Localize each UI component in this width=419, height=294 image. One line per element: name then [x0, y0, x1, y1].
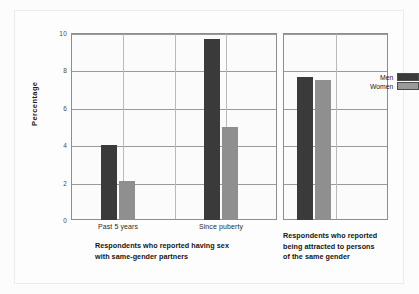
gridline-x-right-1	[336, 34, 337, 219]
caption-left-panel: Respondents who reported having sex with…	[95, 241, 255, 262]
y-axis: 0 2 4 6 8 10	[71, 33, 72, 220]
gridline-x-left-2	[175, 34, 176, 219]
legend-swatch-women-icon	[397, 82, 419, 90]
gridline-y-6	[72, 109, 276, 110]
caption-right-line3: of the same gender	[283, 252, 401, 263]
y-tick-6: 6	[63, 104, 72, 111]
caption-right-line1: Respondents who reported	[283, 231, 401, 242]
legend-label-men: Men	[380, 74, 393, 81]
y-tick-10: 10	[59, 30, 72, 37]
caption-right-line2: being attracted to persons	[283, 242, 401, 253]
plot-area: Men Women	[71, 33, 388, 220]
bar-men-since-puberty[interactable]	[204, 39, 220, 220]
gridline-y-10	[72, 34, 276, 35]
x-tick-past-5-years: Past 5 years	[98, 223, 138, 230]
caption-left-line2: with same-gender partners	[95, 252, 255, 263]
legend-swatch-men-icon	[397, 73, 419, 81]
y-tick-0: 0	[63, 217, 72, 224]
caption-right-panel: Respondents who reported being attracted…	[283, 231, 401, 263]
legend-label-women: Women	[370, 83, 393, 90]
caption-left-line1: Respondents who reported having sex	[95, 241, 255, 252]
bar-men-attraction[interactable]	[297, 77, 313, 220]
legend-item-men[interactable]: Men	[370, 73, 419, 81]
legend: Men Women	[370, 73, 419, 90]
bar-men-past-5-years[interactable]	[101, 145, 117, 220]
y-tick-8: 8	[63, 67, 72, 74]
y-axis-label: Percentage	[30, 82, 39, 126]
y-tick-4: 4	[63, 142, 72, 149]
bar-women-past-5-years[interactable]	[119, 181, 135, 220]
x-tick-since-puberty: Since puberty	[199, 223, 243, 230]
y-tick-2: 2	[63, 179, 72, 186]
legend-item-women[interactable]: Women	[370, 82, 419, 90]
bar-women-attraction[interactable]	[315, 80, 331, 220]
bar-women-since-puberty[interactable]	[222, 127, 238, 221]
gridline-y-8	[72, 71, 276, 72]
